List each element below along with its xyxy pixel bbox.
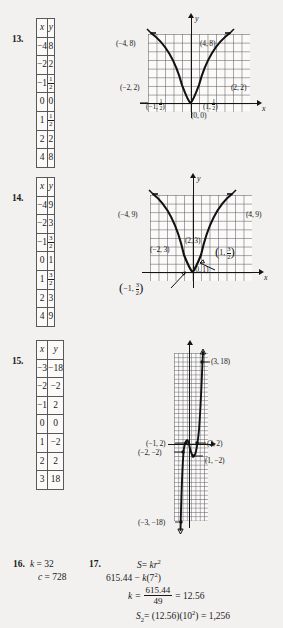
exponent: 2 <box>157 558 160 565</box>
fraction-615-44-over-49: 615.44 49 <box>144 585 173 606</box>
point-label-frac: (−1, 12) <box>146 98 165 111</box>
fraction-numerator: 615.44 <box>144 585 173 595</box>
point-label: (−2, −2) <box>138 448 161 457</box>
fraction-result: = 12.56 <box>175 591 204 601</box>
point-label: (3, 18) <box>211 357 230 366</box>
variable-c: c <box>38 572 42 582</box>
point-label: (2, 2) <box>207 439 222 448</box>
cell-x: 4 <box>37 308 48 327</box>
point-label: (−2, 3) <box>150 245 169 254</box>
point-label: (4, 8) <box>200 39 215 48</box>
expression-part-a: = (12.56)(10 <box>144 611 192 621</box>
point-label: (1, −2) <box>205 456 224 465</box>
cell-y: 9 <box>48 308 55 327</box>
point-label: (−3, −18) <box>138 518 165 527</box>
point-label: (2, 3) <box>185 236 200 245</box>
value-k: = 32 <box>37 559 54 569</box>
point-label: (−4, 9) <box>118 210 137 219</box>
problem-17-line-4: S2= (12.56)(102) = 1,256 <box>136 609 230 623</box>
point-label-frac: (1, 12) <box>203 98 217 111</box>
close-paren: ) <box>158 573 161 583</box>
point-label: (2, 2) <box>231 83 246 92</box>
variable-k: k <box>30 559 34 569</box>
constant-615-44: 615.44 − <box>106 573 142 583</box>
point-label: (−1, 2) <box>146 439 165 448</box>
table-row: 4 9 <box>37 308 55 327</box>
variable-k: k <box>128 591 132 601</box>
problem-16-line-1: k = 32 <box>30 559 54 569</box>
value-c: = 728 <box>45 572 67 582</box>
problem-17-line-3: k = 615.44 49 = 12.56 <box>128 585 204 606</box>
problem-17-line-2: 615.44 − k(72) <box>106 571 161 583</box>
expression-part-b: ) = 1,256 <box>195 611 230 621</box>
point-label: (0, 0) <box>191 111 206 120</box>
problem-17-number: 17. <box>89 559 101 569</box>
fraction-denominator: 49 <box>144 595 173 606</box>
point-label-frac: (1, 32) <box>215 245 235 260</box>
problem-16-line-2: c = 728 <box>38 572 67 582</box>
parabola-curve-13 <box>0 0 283 160</box>
problem-16-number: 16. <box>13 559 25 569</box>
point-label-frac: (−1, 32) <box>119 281 143 296</box>
point-label: (−2, 2) <box>120 83 139 92</box>
equals-sign: = <box>135 591 140 601</box>
problem-17-line-1: S= kr2 <box>137 558 161 570</box>
point-label: (0, 1) <box>193 265 208 274</box>
point-label: (−4, 8) <box>116 39 135 48</box>
point-label: (4, 9) <box>246 210 261 219</box>
answer-key-page: 13. x y −4 8 −2 2 −1 12 <box>0 0 283 628</box>
cubic-curve-15 <box>0 330 283 540</box>
